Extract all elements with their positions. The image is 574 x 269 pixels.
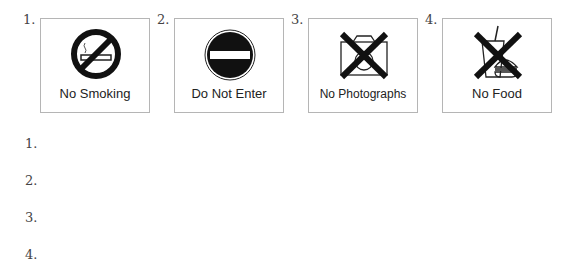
- answer-line-3: 3.: [25, 210, 37, 225]
- sign-number-1: 1.: [23, 12, 35, 27]
- sign-no-food: No Food: [442, 18, 552, 113]
- answer-line-1: 1.: [25, 136, 37, 151]
- sign-label: Do Not Enter: [175, 86, 283, 101]
- sign-number-2: 2.: [157, 12, 169, 27]
- sign-number-4: 4.: [425, 12, 437, 27]
- sign-label: No Food: [443, 86, 551, 101]
- sign-label: No Smoking: [41, 86, 149, 101]
- sign-label: No Photographs: [309, 87, 417, 101]
- sign-do-not-enter: Do Not Enter: [174, 18, 284, 113]
- sign-no-photographs: No Photographs: [308, 18, 418, 113]
- answer-line-2: 2.: [25, 173, 37, 188]
- answer-line-4: 4.: [25, 247, 37, 262]
- sign-no-smoking: No Smoking: [40, 18, 150, 113]
- sign-number-3: 3.: [291, 12, 303, 27]
